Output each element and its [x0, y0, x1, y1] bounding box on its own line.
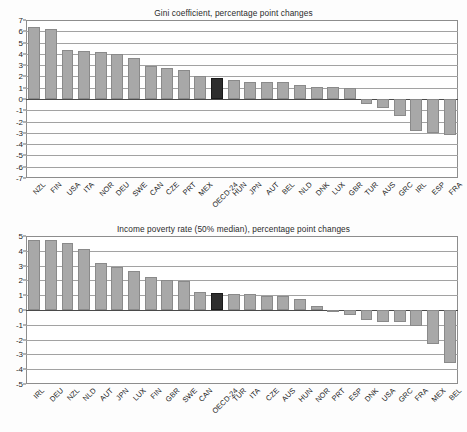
- bar-slot: [192, 236, 209, 384]
- x-label-slot: FRA: [441, 178, 458, 222]
- bar-slot: [325, 20, 342, 178]
- bar-slot: [209, 236, 226, 384]
- bar: [45, 240, 57, 310]
- x-label-slot: NLD: [292, 178, 309, 222]
- x-label-slot: TUR: [225, 384, 242, 428]
- bar: [410, 99, 422, 131]
- x-label-slot: ESP: [425, 178, 442, 222]
- bar-slot: [325, 236, 342, 384]
- bar: [45, 29, 57, 99]
- x-label-slot: ITA: [242, 384, 259, 428]
- bar: [444, 310, 456, 363]
- bar-slot: [259, 236, 276, 384]
- bar-series-gini: [26, 20, 458, 178]
- x-label-slot: CAN: [192, 384, 209, 428]
- x-label-slot: HUN: [292, 384, 309, 428]
- x-label-slot: BEL: [275, 178, 292, 222]
- y-axis-tick-label: -1: [16, 320, 23, 329]
- bar: [294, 85, 306, 99]
- bar: [145, 277, 157, 310]
- x-label-slot: NZL: [59, 384, 76, 428]
- bar-slot: [242, 236, 259, 384]
- x-label-slot: MEX: [425, 384, 442, 428]
- x-label-slot: CZE: [159, 178, 176, 222]
- bar: [444, 99, 456, 135]
- bar-slot: [126, 236, 143, 384]
- bar-slot: [43, 20, 60, 178]
- y-axis-tick-label: -3: [16, 350, 23, 359]
- y-axis-tick-label: 4: [19, 49, 23, 58]
- bar-slot: [391, 236, 408, 384]
- bar-slot: [358, 20, 375, 178]
- bar: [244, 82, 256, 99]
- x-label-slot: JPN: [109, 384, 126, 428]
- bar-slot: [109, 236, 126, 384]
- bar-slot: [26, 20, 43, 178]
- bar: [28, 27, 40, 99]
- y-axis-tick-label: 0: [19, 306, 23, 315]
- chart-panel-poverty: Income poverty rate (50% median), percen…: [0, 224, 467, 432]
- bar: [344, 310, 356, 315]
- bar-slot: [225, 20, 242, 178]
- bar: [194, 292, 206, 311]
- bar: [277, 82, 289, 99]
- y-axis-tick-label: -5: [16, 151, 23, 160]
- bar-slot: [175, 20, 192, 178]
- bar-slot: [175, 236, 192, 384]
- bar: [311, 306, 323, 310]
- chart-title-gini: Gini coefficient, percentage point chang…: [0, 8, 467, 18]
- bar: [78, 249, 90, 310]
- bar-slot: [192, 20, 209, 178]
- y-axis-tick-label: 1: [19, 83, 23, 92]
- bar-slot: [275, 20, 292, 178]
- bar: [62, 243, 74, 310]
- x-label-slot: FIN: [142, 384, 159, 428]
- x-label-slot: GRC: [391, 384, 408, 428]
- y-axis-tick-label: 1: [19, 291, 23, 300]
- y-axis-tick-label: -2: [16, 117, 23, 126]
- x-axis-labels-poverty: IRLDEUNZLNLDAUTJPNLUXFINGBRSWECANOECD-24…: [26, 384, 458, 428]
- bar: [327, 87, 339, 99]
- bar-slot: [441, 236, 458, 384]
- chart-panel-gini: Gini coefficient, percentage point chang…: [0, 8, 467, 220]
- bar: [95, 52, 107, 99]
- bar-slot: [59, 20, 76, 178]
- bar: [394, 310, 406, 322]
- x-label-slot: NOR: [308, 384, 325, 428]
- x-label-slot: NZL: [26, 178, 43, 222]
- x-label-slot: USA: [59, 178, 76, 222]
- bar: [178, 70, 190, 99]
- bar: [261, 82, 273, 99]
- x-label-slot: DNK: [308, 178, 325, 222]
- x-label-slot: PRT: [325, 384, 342, 428]
- x-label-slot: GBR: [159, 384, 176, 428]
- y-axis-tick-label: 2: [19, 72, 23, 81]
- bar-series-poverty: [26, 236, 458, 384]
- bar: [145, 66, 157, 99]
- bar: [95, 263, 107, 310]
- bar: [244, 294, 256, 310]
- chart-title-poverty: Income poverty rate (50% median), percen…: [0, 224, 467, 234]
- y-axis-tick-label: 0: [19, 95, 23, 104]
- bar-slot: [76, 20, 93, 178]
- plot-area-gini: 76543210-1-2-3-4-5-6-7: [26, 20, 458, 178]
- y-axis-tick-label: 2: [19, 276, 23, 285]
- bar: [228, 80, 240, 99]
- bar-slot: [425, 236, 442, 384]
- bar-highlight-oecd-24: [211, 78, 223, 99]
- bar-slot: [109, 20, 126, 178]
- x-label-slot: PRT: [175, 178, 192, 222]
- x-label-slot: TUR: [358, 178, 375, 222]
- y-axis-tick-label: 7: [19, 16, 23, 25]
- bar-slot: [375, 20, 392, 178]
- bar-slot: [126, 20, 143, 178]
- y-axis-tick-label: 5: [19, 38, 23, 47]
- x-label-slot: DNK: [358, 384, 375, 428]
- bar: [128, 58, 140, 99]
- bar-slot: [43, 236, 60, 384]
- bar-slot: [441, 20, 458, 178]
- bar-slot: [342, 20, 359, 178]
- bar: [294, 299, 306, 310]
- bar: [128, 271, 140, 310]
- bar-slot: [209, 20, 226, 178]
